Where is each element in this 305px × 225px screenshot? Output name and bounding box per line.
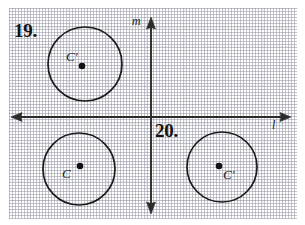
circle-upper-left	[48, 27, 122, 101]
center-dot-upper-left	[79, 63, 86, 70]
center-dot-lower-left	[77, 163, 84, 170]
axis-arrow-up	[147, 17, 156, 29]
axis-arrow-right	[280, 113, 291, 122]
problem-19-label: 19.	[14, 20, 37, 42]
circle-label-lower-right: C′	[223, 167, 235, 183]
center-dot-lower-right	[216, 163, 223, 170]
geometry-worksheet-figure: 19. 20. m l C′ C C′	[0, 0, 305, 225]
axis-label-l: l	[272, 118, 275, 133]
circle-lower-right	[187, 132, 257, 202]
axis-label-m: m	[132, 14, 141, 29]
vertical-axis-m	[147, 17, 156, 214]
axis-arrow-left	[11, 113, 22, 122]
circle-lower-left	[43, 133, 115, 205]
circle-label-upper-left: C′	[66, 49, 78, 65]
figure-vector-layer	[0, 0, 305, 225]
axis-arrow-down	[147, 202, 156, 214]
problem-20-label: 20.	[155, 120, 178, 142]
circle-label-lower-left: C	[62, 166, 71, 182]
